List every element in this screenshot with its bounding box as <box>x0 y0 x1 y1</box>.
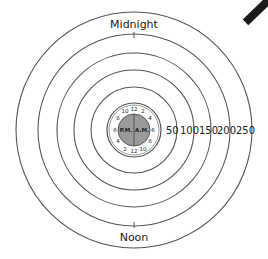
ring-label: 2 <box>123 146 127 152</box>
midnight-label: Midnight <box>110 18 159 31</box>
ring-label: 12 <box>131 148 138 154</box>
scale-label-150: 150 <box>199 125 218 136</box>
diagram-canvas: 12 2 4 6 8 10 12 2 4 6 8 10 P.M. A.M. 50… <box>0 0 268 259</box>
scale-labels: 50 100 150 200 250 <box>166 125 255 136</box>
scale-label-200: 200 <box>217 125 236 136</box>
scale-label-50: 50 <box>166 125 179 136</box>
ring-label: 12 <box>131 106 138 112</box>
ring-label: 4 <box>148 115 152 121</box>
ring-label: 6 <box>113 127 117 133</box>
scale-label-100: 100 <box>180 125 199 136</box>
am-label: A.M. <box>135 127 149 133</box>
ring-label: 6 <box>151 127 155 133</box>
noon-label: Noon <box>120 231 149 244</box>
ring-label: 10 <box>140 146 147 152</box>
ring-label: 10 <box>122 108 129 114</box>
radial-clock-diagram: 12 2 4 6 8 10 12 2 4 6 8 10 P.M. A.M. 50… <box>0 0 268 259</box>
ring-label: 4 <box>116 138 120 144</box>
pm-label: P.M. <box>120 127 133 133</box>
ring-label: 8 <box>116 115 120 121</box>
scale-label-250: 250 <box>236 125 255 136</box>
black-bar <box>243 0 268 25</box>
ring-label: 2 <box>141 108 145 114</box>
ring-label: 8 <box>148 138 152 144</box>
bars <box>168 0 268 25</box>
